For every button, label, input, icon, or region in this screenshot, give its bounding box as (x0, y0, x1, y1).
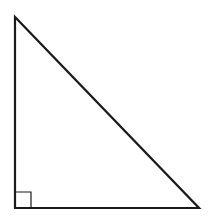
right-triangle (15, 17, 199, 208)
triangle-diagram (0, 0, 217, 224)
right-angle-marker (15, 192, 31, 208)
triangle-svg (0, 0, 217, 224)
